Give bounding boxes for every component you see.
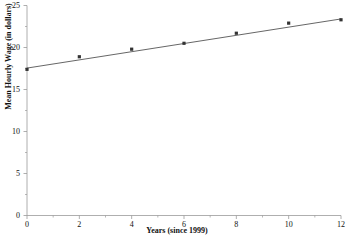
data-point (339, 18, 342, 21)
data-point (182, 42, 185, 45)
axes-group (24, 6, 342, 220)
data-point (25, 68, 28, 71)
data-point (287, 22, 290, 25)
data-point (78, 55, 81, 58)
plot-area (0, 0, 354, 239)
data-point (235, 32, 238, 35)
chart-figure: Mean Hourly Wage (in dollars) Years (sin… (0, 0, 354, 239)
data-point (130, 48, 133, 51)
